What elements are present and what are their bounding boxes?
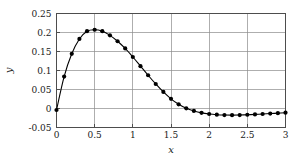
- data-point-marker: [70, 52, 74, 56]
- x-tick-label: 1.5: [164, 130, 179, 140]
- y-tick-label: 0: [46, 104, 52, 114]
- y-tick-label: 0.25: [31, 9, 51, 19]
- x-tick-label: 0: [54, 130, 60, 140]
- data-point-marker: [215, 113, 219, 117]
- data-point-marker: [268, 111, 272, 115]
- data-point-marker: [199, 111, 203, 115]
- data-point-marker: [261, 112, 265, 116]
- y-axis-title: y: [3, 67, 14, 74]
- chart-figure: -0.0500.050.10.150.20.25 00.511.522.53 y…: [0, 0, 297, 165]
- data-point-marker: [177, 102, 181, 106]
- data-point-marker: [115, 39, 119, 43]
- data-point-marker: [146, 73, 150, 77]
- data-point-marker: [85, 29, 89, 33]
- y-axis-tick-labels: -0.0500.050.10.150.20.25: [28, 9, 51, 133]
- x-axis-title: x: [168, 144, 174, 155]
- y-tick-label: 0.15: [31, 47, 51, 57]
- data-point-marker: [207, 112, 211, 116]
- data-point-marker: [123, 46, 127, 50]
- data-point-marker: [276, 111, 280, 115]
- data-point-marker: [238, 113, 242, 117]
- data-point-marker: [93, 28, 97, 32]
- y-tick-label: 0.05: [31, 85, 51, 95]
- x-tick-label: 0.5: [88, 130, 103, 140]
- x-tick-label: 2: [206, 130, 212, 140]
- data-point-marker: [192, 109, 196, 113]
- data-point-marker: [161, 90, 165, 94]
- x-axis-tick-labels: 00.511.522.53: [54, 130, 289, 140]
- data-point-marker: [154, 82, 158, 86]
- y-tick-label: -0.05: [28, 123, 51, 133]
- data-point-marker: [253, 112, 257, 116]
- data-point-marker: [100, 29, 104, 33]
- data-point-marker: [184, 106, 188, 110]
- data-point-marker: [222, 113, 226, 117]
- data-point-marker: [54, 108, 58, 112]
- x-tick-label: 2.5: [240, 130, 255, 140]
- data-point-marker: [169, 97, 173, 101]
- data-point-marker: [131, 55, 135, 59]
- x-tick-label: 3: [283, 130, 289, 140]
- data-point-marker: [230, 113, 234, 117]
- data-point-marker: [245, 113, 249, 117]
- gridlines: [57, 14, 286, 128]
- data-point-marker: [283, 111, 287, 115]
- line-chart: -0.0500.050.10.150.20.25 00.511.522.53 y…: [0, 0, 297, 165]
- y-tick-label: 0.1: [37, 66, 51, 76]
- y-tick-label: 0.2: [37, 28, 51, 38]
- data-point-marker: [138, 64, 142, 68]
- x-tick-label: 1: [130, 130, 136, 140]
- data-point-marker: [62, 74, 66, 78]
- data-point-marker: [108, 33, 112, 37]
- data-point-marker: [77, 37, 81, 41]
